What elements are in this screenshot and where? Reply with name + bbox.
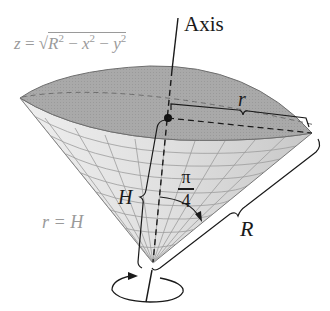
axis-label: Axis <box>184 14 224 35</box>
cone-equation: r = H <box>42 213 83 231</box>
height-label: H <box>118 187 132 207</box>
sphere-equation: z = √R2 − x2 − y2 <box>14 33 126 52</box>
angle-label: π 4 <box>178 168 194 210</box>
angle-denominator: 4 <box>182 192 191 210</box>
slant-radius-label: R <box>240 218 253 240</box>
rotation-arrowhead <box>128 272 138 280</box>
fraction-bar <box>178 188 194 190</box>
small-radius-label: r <box>238 89 246 109</box>
diagram-canvas: z = √R2 − x2 − y2 Axis r H π 4 r = H R <box>0 0 330 311</box>
angle-numerator: π <box>181 168 190 186</box>
rotation-arrow <box>112 276 183 302</box>
